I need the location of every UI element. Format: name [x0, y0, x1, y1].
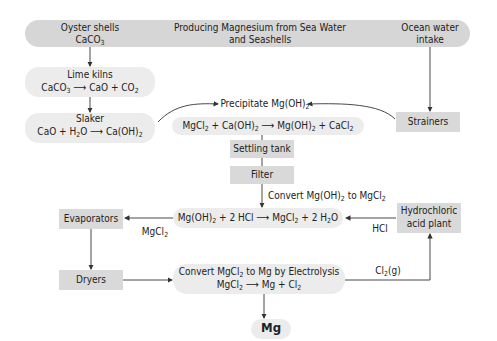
oyster-label: Oyster shells [25, 22, 155, 34]
title-line1: Producing Magnesium from Sea Water [150, 22, 370, 34]
slaker-formula: CaO + H2O ⟶ Ca(OH)2 [25, 126, 155, 138]
oyster-formula: CaCO3 [25, 34, 155, 46]
evaporators-label: Evaporators [59, 213, 123, 225]
electrolysis-formula: MgCl2 ⟶ Mg + Cl2 [173, 279, 345, 291]
slaker-label: Slaker [25, 113, 155, 125]
edge-mgcl2: MgCl2 [135, 226, 175, 238]
filter-label: Filter [230, 169, 294, 181]
hcl-plant-label1: Hydrochloric [397, 205, 461, 217]
title-line2: and Seashells [150, 34, 370, 46]
ocean-label1: Ocean water [390, 22, 470, 34]
dryers-label: Dryers [59, 274, 123, 286]
edge-cl2: Cl2(g) [368, 265, 408, 277]
edge-hcl: HCl [365, 223, 395, 235]
convert-hcl-label: Convert Mg(OH)2 to MgCl2 [268, 190, 386, 202]
lime-kilns-formula: CaCO3 ⟶ CaO + CO2 [25, 82, 155, 94]
strainers-label: Strainers [396, 116, 460, 128]
mg-label: Mg [251, 322, 291, 334]
precipitate-label: Precipitate Mg(OH)2 [220, 98, 310, 110]
electrolysis-label: Convert MgCl2 to Mg by Electrolysis [173, 266, 345, 278]
settling-label: Settling tank [230, 143, 294, 155]
hcl-plant-label2: acid plant [397, 218, 461, 230]
lime-kilns-label: Lime kilns [25, 69, 155, 81]
precipitate-formula: MgCl2 + Ca(OH)2 ⟶ Mg(OH)2 + CaCl2 [172, 120, 364, 132]
convert-hcl-formula: Mg(OH)2 + 2 HCl ⟶ MgCl2 + 2 H2O [173, 212, 343, 224]
ocean-label2: intake [390, 34, 470, 46]
